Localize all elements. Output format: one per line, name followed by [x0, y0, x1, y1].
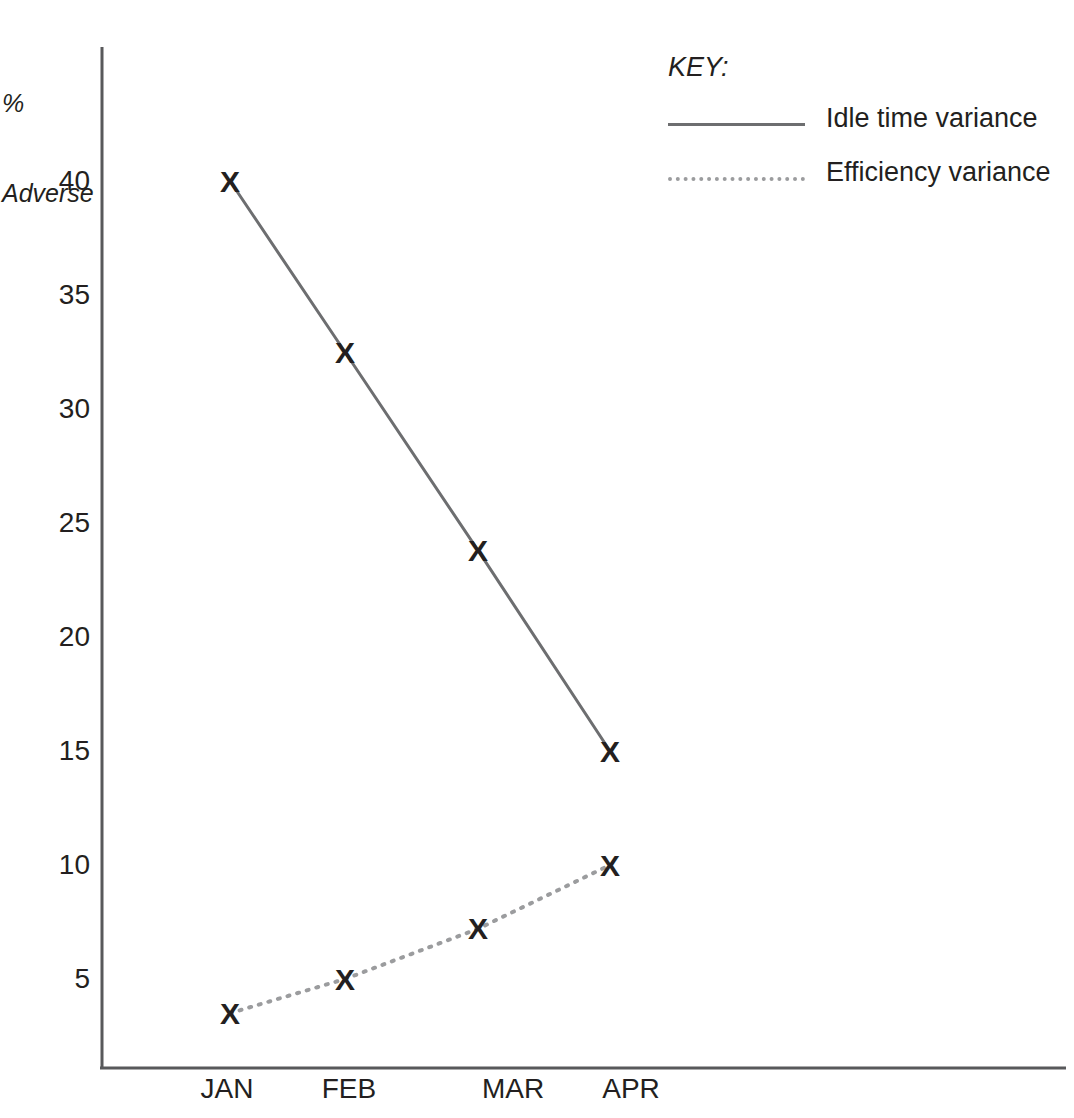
legend-line-sample-solid-icon — [668, 123, 805, 126]
chart-legend: KEY: Idle time variance Efficiency varia… — [668, 52, 1048, 207]
legend-item-efficiency-variance: Efficiency variance — [668, 153, 1048, 207]
series-markers-efficiency-variance: X X X X — [220, 849, 620, 1030]
data-point-marker: X — [335, 963, 355, 996]
data-point-marker: X — [335, 336, 355, 369]
data-point-marker: X — [220, 997, 240, 1030]
data-point-marker: X — [600, 849, 620, 882]
series-line-idle-time-variance — [230, 181, 610, 751]
chart-container: % Adverse 40 35 30 25 20 15 10 5 JAN FEB… — [0, 0, 1074, 1118]
data-point-marker: X — [600, 735, 620, 768]
legend-item-idle-time-variance: Idle time variance — [668, 99, 1048, 153]
data-point-marker: X — [220, 165, 240, 198]
legend-item-label: Efficiency variance — [826, 157, 1051, 188]
legend-line-sample-dotted-icon — [668, 177, 805, 181]
series-line-efficiency-variance — [230, 865, 610, 1013]
data-point-marker: X — [468, 912, 488, 945]
legend-title: KEY: — [668, 52, 1048, 83]
data-point-marker: X — [468, 534, 488, 567]
legend-item-label: Idle time variance — [826, 103, 1038, 134]
